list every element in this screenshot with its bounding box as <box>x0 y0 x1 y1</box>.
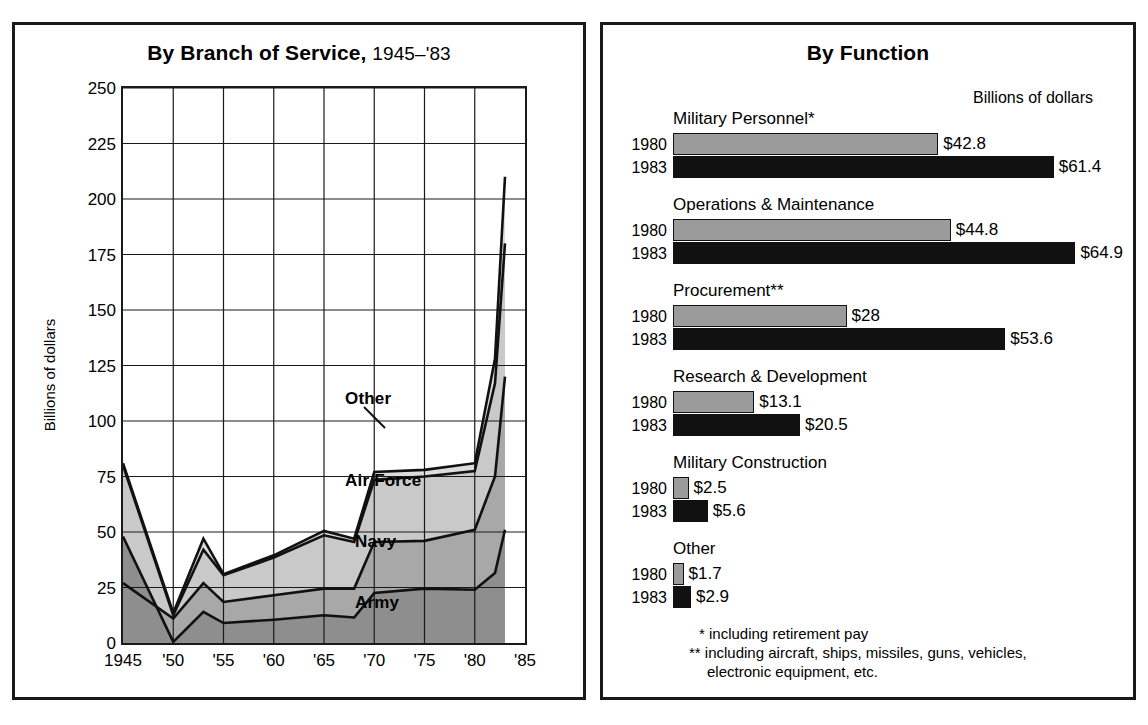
bar-value-1983: $53.6 <box>1010 328 1053 350</box>
bar-1983 <box>673 586 691 608</box>
bar-year-label-1980: 1980 <box>619 394 667 412</box>
series-label-air-force: Air Force <box>345 471 421 491</box>
bar-year-label-1980: 1980 <box>619 136 667 154</box>
x-tick-1975: '75 <box>413 652 435 669</box>
bar-1983 <box>673 328 1005 350</box>
bar-year-label-1980: 1980 <box>619 480 667 498</box>
left-title-years: 1945–'83 <box>372 43 450 64</box>
y-tick-225: 225 <box>88 135 116 152</box>
bar-1980 <box>673 391 754 413</box>
series-label-other: Other <box>345 389 391 409</box>
bar-1983 <box>673 414 800 436</box>
bar-year-label-1980: 1980 <box>619 566 667 584</box>
x-tick-1960: '60 <box>263 652 285 669</box>
bar-1983 <box>673 156 1054 178</box>
bar-value-1980: $44.8 <box>956 219 999 241</box>
footnote-2: ** including aircraft, ships, missiles, … <box>689 644 1027 661</box>
bar-1980 <box>673 133 938 155</box>
bar-1980 <box>673 563 684 585</box>
y-tick-100: 100 <box>88 413 116 430</box>
bar-value-1983: $20.5 <box>805 414 848 436</box>
bar-1980 <box>673 305 847 327</box>
left-title-bold: By Branch of Service, <box>147 41 366 64</box>
x-tick-1955: '55 <box>212 652 234 669</box>
footnote-3: electronic equipment, etc. <box>707 663 878 680</box>
area-bands <box>123 177 505 643</box>
area-chart-plot: 0 25 50 75 100 125 150 175 200 225 250 1… <box>121 86 527 645</box>
x-tick-1970: '70 <box>363 652 385 669</box>
footnote-1: * including retirement pay <box>699 625 868 642</box>
function-group-label: Military Construction <box>673 453 827 473</box>
bar-year-label-1983: 1983 <box>619 331 667 349</box>
bar-value-1980: $2.5 <box>694 477 727 499</box>
bar-value-1983: $61.4 <box>1059 156 1102 178</box>
bar-value-1983: $2.9 <box>696 586 729 608</box>
bar-value-1980: $13.1 <box>759 391 802 413</box>
y-tick-175: 175 <box>88 246 116 263</box>
bar-value-1983: $5.6 <box>713 500 746 522</box>
y-tick-150: 150 <box>88 302 116 319</box>
function-group-label: Research & Development <box>673 367 867 387</box>
bar-1983 <box>673 242 1075 264</box>
bar-value-1980: $28 <box>852 305 880 327</box>
bar-year-label-1983: 1983 <box>619 417 667 435</box>
x-tick-1945: 1945 <box>104 652 142 669</box>
x-tick-1985: '85 <box>514 652 536 669</box>
panel-by-function: By Function Billions of dollars Military… <box>600 22 1136 700</box>
y-tick-50: 50 <box>97 524 116 541</box>
units-label: Billions of dollars <box>973 89 1093 107</box>
y-tick-250: 250 <box>88 80 116 97</box>
y-tick-75: 75 <box>97 468 116 485</box>
bar-year-label-1980: 1980 <box>619 222 667 240</box>
panel-by-branch-of-service: By Branch of Service, 1945–'83 Billions … <box>12 22 586 700</box>
y-tick-200: 200 <box>88 191 116 208</box>
function-group-label: Procurement** <box>673 281 784 301</box>
bar-year-label-1983: 1983 <box>619 589 667 607</box>
x-tick-1950: '50 <box>162 652 184 669</box>
bar-year-label-1983: 1983 <box>619 245 667 263</box>
x-tick-1965: '65 <box>313 652 335 669</box>
stacked-area-svg <box>123 88 525 643</box>
bar-value-1980: $42.8 <box>943 133 986 155</box>
function-group-label: Other <box>673 539 716 559</box>
bar-year-label-1980: 1980 <box>619 308 667 326</box>
bar-1983 <box>673 500 708 522</box>
bar-1980 <box>673 219 951 241</box>
x-tick-1980: '80 <box>464 652 486 669</box>
bar-value-1983: $64.9 <box>1080 242 1123 264</box>
function-group-label: Military Personnel* <box>673 109 815 129</box>
bar-year-label-1983: 1983 <box>619 159 667 177</box>
y-tick-25: 25 <box>97 579 116 596</box>
series-label-navy: Navy <box>355 532 396 552</box>
function-group-label: Operations & Maintenance <box>673 195 874 215</box>
series-label-army: Army <box>355 593 399 613</box>
right-panel-title: By Function <box>603 41 1133 65</box>
bar-year-label-1983: 1983 <box>619 503 667 521</box>
bar-value-1980: $1.7 <box>689 563 722 585</box>
bar-1980 <box>673 477 689 499</box>
y-tick-125: 125 <box>88 357 116 374</box>
y-tick-0: 0 <box>107 635 116 652</box>
y-axis-label: Billions of dollars <box>41 319 58 432</box>
infographic-root: By Branch of Service, 1945–'83 Billions … <box>0 0 1148 725</box>
left-panel-title: By Branch of Service, 1945–'83 <box>15 41 583 65</box>
